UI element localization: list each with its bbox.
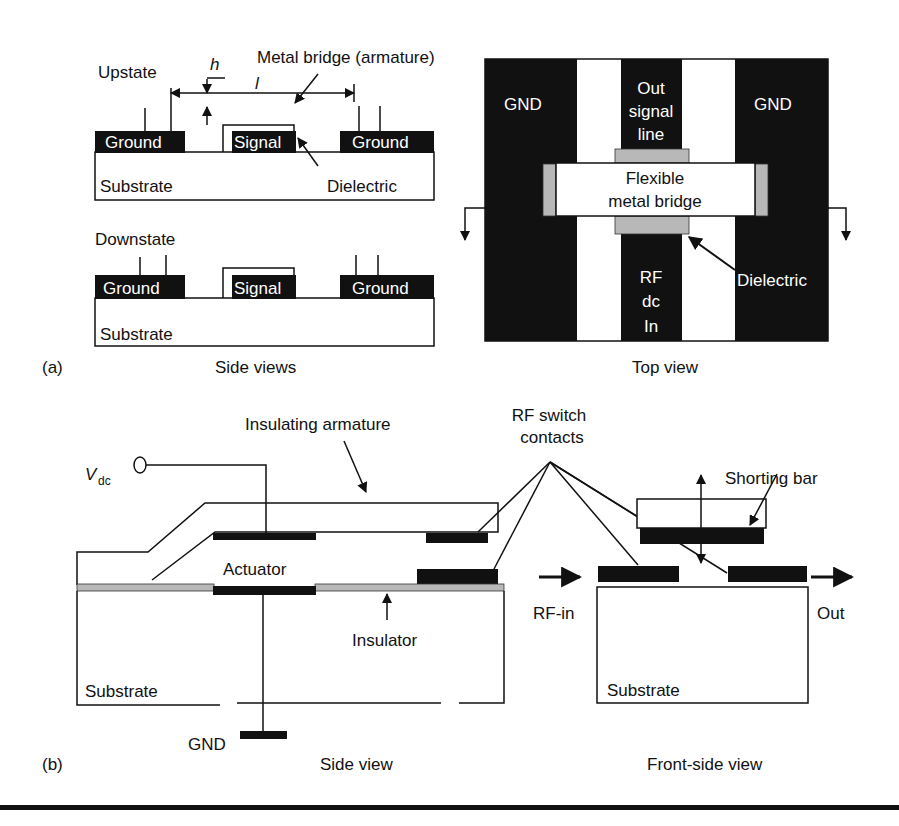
upstate-substrate-label: Substrate (100, 177, 173, 196)
upstate-signal-label: Signal (234, 133, 281, 152)
insulator-layer-right (315, 584, 504, 591)
in-line-label-3: In (644, 317, 658, 336)
vdc-subscript: dc (98, 474, 111, 488)
panel-a-tag: (a) (42, 358, 63, 377)
in-line-label-1: RF (640, 268, 663, 287)
front-substrate-label: Substrate (607, 681, 680, 700)
gap-symbol: h (210, 55, 219, 74)
top-dielectric-upper (615, 149, 689, 163)
insulator-label: Insulator (352, 631, 418, 650)
vdc-wire (146, 465, 266, 533)
rf-mems-switch-diagram: Upstate h l Metal bridge (armature) Grou… (0, 0, 899, 826)
upstate-label: Upstate (98, 63, 157, 82)
upstate-ground-right-label: Ground (352, 133, 409, 152)
upstate-dielectric-label: Dielectric (327, 177, 397, 196)
downstate-label: Downstate (95, 230, 175, 249)
downstate-signal-label: Signal (234, 279, 281, 298)
side-views-caption: Side views (215, 358, 296, 377)
rf-contact-lower (417, 569, 498, 584)
side-substrate-label: Substrate (85, 682, 158, 701)
metal-bridge-label: Metal bridge (armature) (257, 48, 435, 67)
actuator-side-view: V dc Insulating armature Actuator Insula… (77, 415, 504, 754)
armature-pointer (344, 441, 366, 492)
in-line-label-2: dc (642, 292, 660, 311)
out-label: Out (817, 604, 845, 623)
bridge-pointer (295, 74, 318, 103)
gnd-label: GND (188, 735, 226, 754)
rf-contacts-label-1: RF switch (512, 406, 587, 425)
front-side-view-caption: Front-side view (647, 755, 763, 774)
vdc-label: V (85, 465, 98, 484)
insulating-armature-label: Insulating armature (245, 415, 391, 434)
upstate-side-view: Upstate h l Metal bridge (armature) Grou… (95, 48, 435, 200)
out-line-label-3: line (638, 125, 664, 144)
front-side-view: Shorting bar RF-in Out Substrate (533, 469, 852, 703)
downstate-ground-left-label: Ground (103, 279, 160, 298)
rf-in-contact (598, 566, 679, 582)
downstate-side-view: Downstate Ground Signal Ground Substrate (95, 230, 434, 346)
shorting-bar-label: Shorting bar (725, 469, 818, 488)
rf-in-label: RF-in (533, 604, 575, 623)
gnd-plate (240, 731, 287, 739)
bridge-label-2: metal bridge (608, 192, 702, 211)
bottom-rule (0, 805, 899, 810)
length-symbol: l (255, 74, 260, 93)
downstate-substrate-label: Substrate (100, 325, 173, 344)
top-anchor-left (543, 164, 556, 216)
top-view-caption: Top view (632, 358, 699, 377)
shorting-bar (640, 528, 764, 544)
top-view: GND GND Out signal line Flexible metal b… (465, 59, 846, 341)
vdc-terminal-icon (134, 457, 146, 473)
panel-b-tag: (b) (42, 755, 63, 774)
top-gnd-right-label: GND (754, 95, 792, 114)
top-anchor-right (755, 164, 768, 216)
bridge-label-1: Flexible (626, 169, 685, 188)
downstate-ground-right-label: Ground (352, 279, 409, 298)
upstate-ground-left-label: Ground (105, 133, 162, 152)
section-cut-left (465, 208, 485, 240)
section-cut-right (828, 208, 846, 240)
actuator-electrode-top (213, 533, 316, 540)
rf-out-contact (728, 566, 807, 582)
actuator-electrode-bottom (213, 586, 316, 595)
top-dielectric-label: Dielectric (737, 271, 807, 290)
out-line-label-2: signal (629, 102, 673, 121)
actuator-label: Actuator (223, 560, 287, 579)
top-dielectric-lower (615, 216, 689, 234)
rf-switch-contacts-callout: RF switch contacts (478, 406, 727, 573)
side-view-caption: Side view (320, 755, 393, 774)
insulator-layer-left (77, 584, 214, 591)
rf-contact-upper (426, 533, 488, 543)
rf-contacts-label-2: contacts (520, 428, 583, 447)
top-gnd-left-label: GND (504, 95, 542, 114)
out-line-label-1: Out (637, 79, 665, 98)
